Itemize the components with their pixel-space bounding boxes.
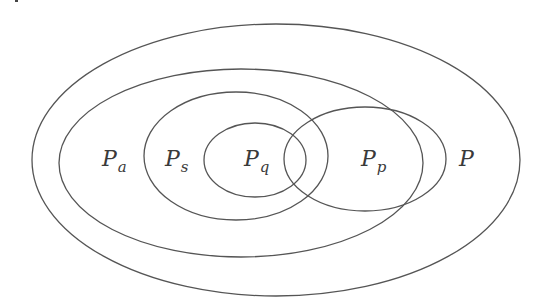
label-set-Pq: Pq xyxy=(244,148,269,170)
label-subscript: a xyxy=(118,158,127,176)
label-main: P xyxy=(165,146,180,171)
label-main: P xyxy=(244,146,259,171)
label-set-Ps: Ps xyxy=(165,148,189,170)
label-main: P xyxy=(102,146,117,171)
label-subscript: s xyxy=(181,158,189,176)
label-set-Pa: Pa xyxy=(102,148,127,170)
label-subscript: q xyxy=(260,158,270,176)
label-main: P xyxy=(459,146,474,171)
label-set-P: P xyxy=(459,148,474,170)
label-main: P xyxy=(361,146,376,171)
label-subscript: p xyxy=(377,158,387,176)
label-set-Pp: Pp xyxy=(361,148,386,170)
